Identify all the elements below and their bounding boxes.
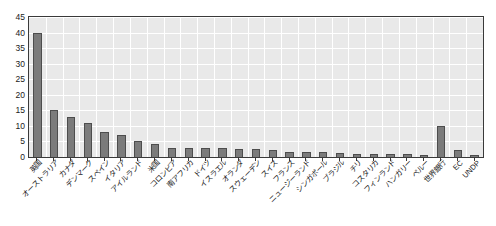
y-axis-tick-label: 40 (16, 28, 25, 37)
y-axis-tick-label: 20 (16, 91, 25, 100)
bar (33, 33, 41, 157)
y-axis-tick-label: 35 (16, 44, 25, 53)
y-axis-tick-label: 10 (16, 122, 25, 131)
x-axis-tick-labels: 英国オーストラリアカナダデンマークスペインイタリアアイルランド米国コロンビア南ア… (0, 158, 496, 226)
y-axis-tick-label: 15 (16, 106, 25, 115)
y-axis-tick-label: 45 (16, 13, 25, 22)
bar (50, 110, 58, 157)
y-axis-tick-label: 5 (20, 137, 25, 146)
bar-chart-figure: 051015202530354045 英国オーストラリアカナダデンマークスペイン… (0, 0, 496, 226)
y-axis-tick-label: 30 (16, 59, 25, 68)
bars-container (29, 17, 483, 157)
y-axis-tick-label: 25 (16, 75, 25, 84)
